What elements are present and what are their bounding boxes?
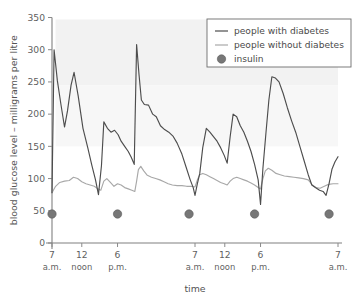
insulin-marker-2 <box>185 210 193 218</box>
y-tick-label-200: 200 <box>27 108 45 119</box>
x-tick-sublabel-2: p.m. <box>108 262 127 272</box>
glucose-chart-figure: 050100150200250300350 7a.m.12noon6p.m.7a… <box>0 0 357 299</box>
x-tick-sublabel-3: a.m. <box>186 262 205 272</box>
x-tick-label-2: 6 <box>115 249 121 260</box>
x-tick-sublabel-5: p.m. <box>251 262 270 272</box>
y-tick-label-150: 150 <box>27 141 45 152</box>
x-tick-label-5: 6 <box>258 249 264 260</box>
y-tick-label-250: 250 <box>27 76 45 87</box>
y-tick-label-0: 0 <box>39 237 45 248</box>
insulin-markers-group <box>48 210 333 218</box>
insulin-marker-0 <box>48 210 56 218</box>
legend-label-1: people without diabetes <box>234 40 344 50</box>
y-tick-label-100: 100 <box>27 173 45 184</box>
y-tick-label-50: 50 <box>33 205 45 216</box>
x-tick-label-1: 12 <box>76 249 88 260</box>
plot-shade-mid <box>56 85 338 146</box>
x-tick-sublabel-0: a.m. <box>43 262 62 272</box>
chart-canvas: 050100150200250300350 7a.m.12noon6p.m.7a… <box>0 0 357 299</box>
x-tick-label-4: 12 <box>219 249 231 260</box>
insulin-marker-3 <box>250 210 258 218</box>
legend-label-0: people with diabetes <box>234 26 329 36</box>
y-tick-label-350: 350 <box>27 12 45 23</box>
x-tick-sublabel-6: a.m. <box>329 262 348 272</box>
x-tick-label-0: 7 <box>49 249 55 260</box>
legend-label-2: insulin <box>234 54 264 64</box>
x-tick-sublabel-1: noon <box>71 262 92 272</box>
x-tick-label-3: 7 <box>192 249 198 260</box>
x-tick-sublabel-4: noon <box>214 262 235 272</box>
legend-dot-swatch-2 <box>217 55 225 63</box>
x-tick-label-6: 7 <box>335 249 341 260</box>
chart-legend: people with diabetespeople without diabe… <box>207 19 351 67</box>
y-axis-title: blood glucose level – milligrams per lit… <box>8 35 19 225</box>
x-axis-title: time <box>184 283 205 294</box>
insulin-marker-4 <box>325 210 333 218</box>
y-tick-label-300: 300 <box>27 44 45 55</box>
insulin-marker-1 <box>113 210 121 218</box>
x-axis: 7a.m.12noon6p.m.7a.m.12noon6p.m.7a.m. <box>43 243 348 272</box>
